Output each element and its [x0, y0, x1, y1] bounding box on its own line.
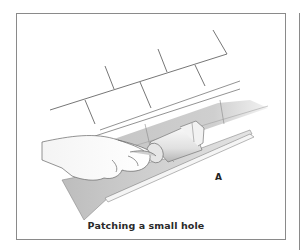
- caulking-illustration: [0, 0, 302, 250]
- figure-label: A: [215, 172, 222, 182]
- figure-caption: Patching a small hole: [0, 220, 302, 231]
- caption-text: Patching a small hole: [88, 220, 205, 231]
